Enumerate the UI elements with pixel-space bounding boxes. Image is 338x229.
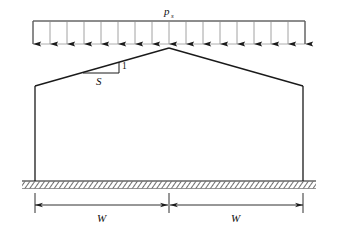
gable-frame	[35, 48, 303, 181]
dimension-label-right-W: W	[231, 212, 241, 224]
load-arrow-group	[33, 21, 305, 44]
dimension-lines	[35, 193, 303, 213]
diagram-canvas: p s 1 S	[0, 0, 338, 229]
gable-frame-load-diagram: p s 1 S	[0, 0, 338, 229]
ground	[22, 181, 316, 189]
load-label-p: p	[163, 5, 170, 17]
right-rafter	[169, 48, 303, 86]
load-block	[33, 21, 305, 44]
ground-hatching	[22, 182, 316, 189]
slope-run-label: S	[96, 75, 102, 87]
load-label-subscript-s: s	[171, 12, 174, 20]
slope-rise-label: 1	[122, 61, 127, 71]
dimension-label-left-W: W	[97, 212, 107, 224]
left-rafter	[35, 48, 169, 86]
